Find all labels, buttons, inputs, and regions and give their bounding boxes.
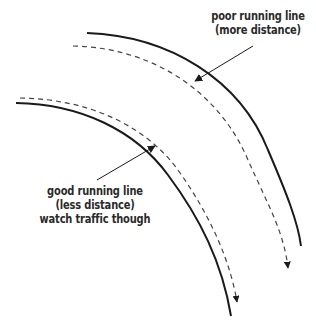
- poor-pointer-arrow: [195, 46, 253, 81]
- good-pointer-arrow: [97, 146, 155, 180]
- good-label-line-3: watch traffic though: [39, 212, 151, 226]
- good-label-line-2: (less distance): [39, 198, 151, 212]
- poor-running-line-path: [73, 46, 288, 268]
- poor-label-line-2: (more distance): [208, 23, 308, 37]
- poor-running-line-label: poor running line (more distance): [208, 9, 308, 37]
- good-running-line-label: good running line (less distance) watch …: [39, 184, 151, 226]
- good-label-line-1: good running line: [39, 184, 151, 198]
- diagram-canvas: [0, 0, 316, 329]
- running-line-diagram: poor running line (more distance) good r…: [0, 0, 316, 329]
- poor-label-line-1: poor running line: [208, 9, 308, 23]
